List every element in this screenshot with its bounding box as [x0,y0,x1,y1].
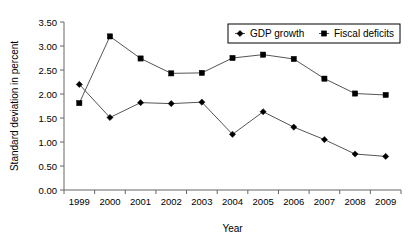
x-axis-tick-label: 1999 [69,196,90,207]
data-point-marker [352,91,357,96]
series-fiscal-deficits [77,34,389,106]
x-axis-tick-label: 2004 [222,196,243,207]
legend: GDP growthFiscal deficits [228,24,400,43]
x-axis-title: Year [222,223,243,234]
data-point-marker [291,124,297,130]
x-axis-tick-label: 2006 [283,196,304,207]
x-axis-tick-label: 2003 [191,196,212,207]
y-axis-tick-label: 2.00 [39,89,58,100]
data-point-marker [261,52,266,57]
data-point-marker [199,70,204,75]
data-point-marker [168,101,174,107]
data-point-marker [383,153,389,159]
x-axis-tick-label: 2009 [375,196,396,207]
y-axis-tick-label: 3.50 [39,17,58,28]
y-axis-title: Standard deviation in percent [9,41,20,171]
data-point-marker [321,137,327,143]
data-point-marker [230,55,235,60]
x-axis-tick-label: 2002 [161,196,182,207]
data-point-marker [137,100,143,106]
x-axis-tick-label: 2007 [314,196,335,207]
x-axis-tick-label: 2008 [344,196,365,207]
x-axis-tick-label: 2005 [253,196,274,207]
series-line [79,36,385,103]
y-axis-tick-label: 2.50 [39,65,58,76]
y-axis-tick-label: 3.00 [39,41,58,52]
data-point-marker [138,56,143,61]
data-point-marker [383,92,388,97]
data-point-marker [322,76,327,81]
series-gdp-growth [76,81,389,159]
data-point-marker [291,56,296,61]
y-axis-tick-label: 0.50 [39,161,58,172]
line-chart: 0.000.501.001.502.002.503.003.5019992000… [0,0,414,240]
x-axis-tick-label: 2001 [130,196,151,207]
data-point-marker [107,34,112,39]
data-point-marker [77,101,82,106]
data-point-marker [352,151,358,157]
series-line [79,84,385,156]
y-axis-tick-label: 1.00 [39,137,58,148]
legend-item-label: GDP growth [250,28,304,39]
x-axis-tick-label: 2000 [99,196,120,207]
data-point-marker [321,31,326,36]
data-point-marker [169,71,174,76]
legend-item-label: Fiscal deficits [334,28,394,39]
y-axis-tick-label: 1.50 [39,113,58,124]
chart-container: 0.000.501.001.502.002.503.003.5019992000… [0,0,414,240]
y-axis-tick-label: 0.00 [39,185,58,196]
